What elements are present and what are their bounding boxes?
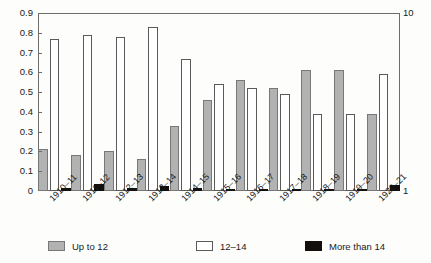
- bars-layer: [38, 13, 400, 191]
- bar-group: [301, 13, 334, 191]
- y-axis-tick-mark: [38, 72, 42, 73]
- legend-swatch: [48, 241, 65, 251]
- y-axis-tick-label: 0.3: [20, 127, 33, 137]
- bar-group: [38, 13, 71, 191]
- bar: [181, 59, 191, 192]
- y-axis-tick-label: 0.4: [20, 107, 33, 117]
- bar: [83, 35, 93, 191]
- y-axis-tick-label: 0.6: [20, 68, 33, 78]
- bar: [346, 114, 356, 191]
- legend-swatch: [196, 241, 213, 251]
- bar-group: [334, 13, 367, 191]
- y-axis-right-tick-label: 10: [403, 8, 414, 18]
- y-axis-right-tick-label: 1: [403, 186, 408, 196]
- legend-swatch: [305, 241, 322, 251]
- bar: [313, 114, 323, 191]
- bar-chart: 00.10.20.30.40.50.60.70.80.9 110 1910–11…: [0, 0, 431, 263]
- y-axis-tick-mark: [38, 92, 42, 93]
- bar-group: [367, 13, 400, 191]
- y-axis-tick-mark: [38, 33, 42, 34]
- y-axis-tick-mark: [38, 53, 42, 54]
- bar-group: [71, 13, 104, 191]
- bar-group: [235, 13, 268, 191]
- bar-group: [203, 13, 236, 191]
- bar: [148, 27, 158, 191]
- y-axis-left: 00.10.20.30.40.50.60.70.80.9: [0, 13, 33, 191]
- bar-group: [137, 13, 170, 191]
- bar-group: [268, 13, 301, 191]
- legend-item[interactable]: More than 14: [305, 238, 385, 254]
- bar-group: [170, 13, 203, 191]
- bar: [247, 88, 257, 191]
- x-axis-labels: 1910–111911–121912–131913–141914–151915–…: [38, 191, 400, 239]
- bar: [214, 84, 224, 191]
- y-axis-tick-mark: [38, 171, 42, 172]
- legend-label: Up to 12: [72, 241, 108, 252]
- legend-label: 12–14: [220, 241, 246, 252]
- bar: [50, 39, 60, 191]
- bar: [280, 94, 290, 191]
- bar: [379, 74, 389, 191]
- y-axis-tick-label: 0.7: [20, 48, 33, 58]
- y-axis-tick-mark: [38, 151, 42, 152]
- bar: [116, 37, 126, 191]
- y-axis-tick-label: 0.1: [20, 166, 33, 176]
- chart-legend: Up to 1212–14More than 14: [0, 238, 431, 263]
- y-axis-right: 110: [403, 13, 431, 191]
- y-axis-tick-label: 0.2: [20, 147, 33, 157]
- legend-item[interactable]: 12–14: [196, 238, 246, 254]
- y-axis-tick-mark: [38, 132, 42, 133]
- y-axis-tick-mark: [38, 112, 42, 113]
- bar-group: [104, 13, 137, 191]
- legend-item[interactable]: Up to 12: [48, 238, 108, 254]
- y-axis-tick-label: 0.9: [20, 8, 33, 18]
- y-axis-tick-label: 0.8: [20, 28, 33, 38]
- y-axis-tick-label: 0: [28, 186, 33, 196]
- legend-label: More than 14: [329, 241, 385, 252]
- y-axis-tick-label: 0.5: [20, 87, 33, 97]
